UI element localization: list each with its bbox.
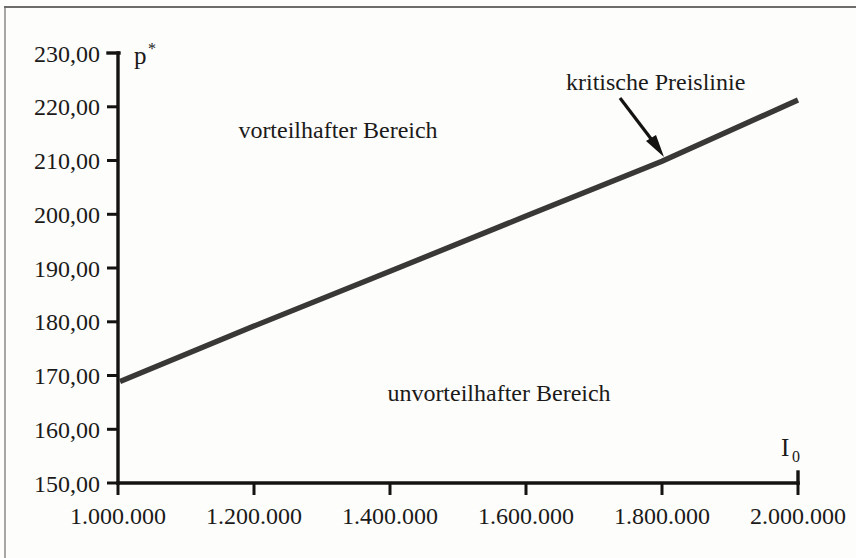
x-axis-title-text: I bbox=[781, 434, 789, 461]
x-tick-label: 1.800.000 bbox=[614, 503, 710, 529]
y-tick-label: 160,00 bbox=[34, 417, 100, 443]
x-tick-label: 1.200.000 bbox=[206, 503, 302, 529]
region-label-disadvantageous: unvorteilhafter Bereich bbox=[387, 380, 610, 406]
y-axis-title: p * bbox=[134, 40, 156, 69]
y-tick-label: 200,00 bbox=[34, 202, 100, 228]
x-tick-label: 2.000.000 bbox=[750, 503, 846, 529]
callout-label-text: kritische Preislinie bbox=[566, 69, 745, 95]
critical-price-line-chart: 150,00 160,00 170,00 180,00 190,00 200,0… bbox=[0, 0, 856, 558]
y-tick-label: 220,00 bbox=[34, 94, 100, 120]
region-label-advantageous: vorteilhafter Bereich bbox=[238, 117, 437, 143]
y-tick-label: 170,00 bbox=[34, 363, 100, 389]
x-axis-title: I 0 bbox=[781, 434, 800, 465]
critical-price-line-series bbox=[120, 100, 798, 381]
y-tick-label: 190,00 bbox=[34, 256, 100, 282]
x-tick-label: 1.600.000 bbox=[478, 503, 574, 529]
y-tick-label: 180,00 bbox=[34, 309, 100, 335]
x-axis-title-subscript: 0 bbox=[792, 448, 800, 465]
callout-arrow-shaft bbox=[620, 98, 655, 144]
critical-price-line-callout: kritische Preislinie bbox=[566, 69, 745, 157]
x-tick-label: 1.400.000 bbox=[342, 503, 438, 529]
y-axis-title-superscript: * bbox=[148, 40, 156, 57]
y-tick-label: 230,00 bbox=[34, 41, 100, 67]
chart-page: 150,00 160,00 170,00 180,00 190,00 200,0… bbox=[0, 0, 856, 558]
y-tick-label: 150,00 bbox=[34, 471, 100, 497]
axes-group bbox=[108, 53, 798, 483]
y-axis-tick-labels: 150,00 160,00 170,00 180,00 190,00 200,0… bbox=[34, 41, 100, 497]
y-tick-label: 210,00 bbox=[34, 148, 100, 174]
x-axis-ticks bbox=[118, 483, 798, 495]
y-axis-title-text: p bbox=[134, 42, 147, 69]
x-tick-label: 1.000.000 bbox=[70, 503, 166, 529]
x-axis-tick-labels: 1.000.000 1.200.000 1.400.000 1.600.000 … bbox=[70, 503, 846, 529]
